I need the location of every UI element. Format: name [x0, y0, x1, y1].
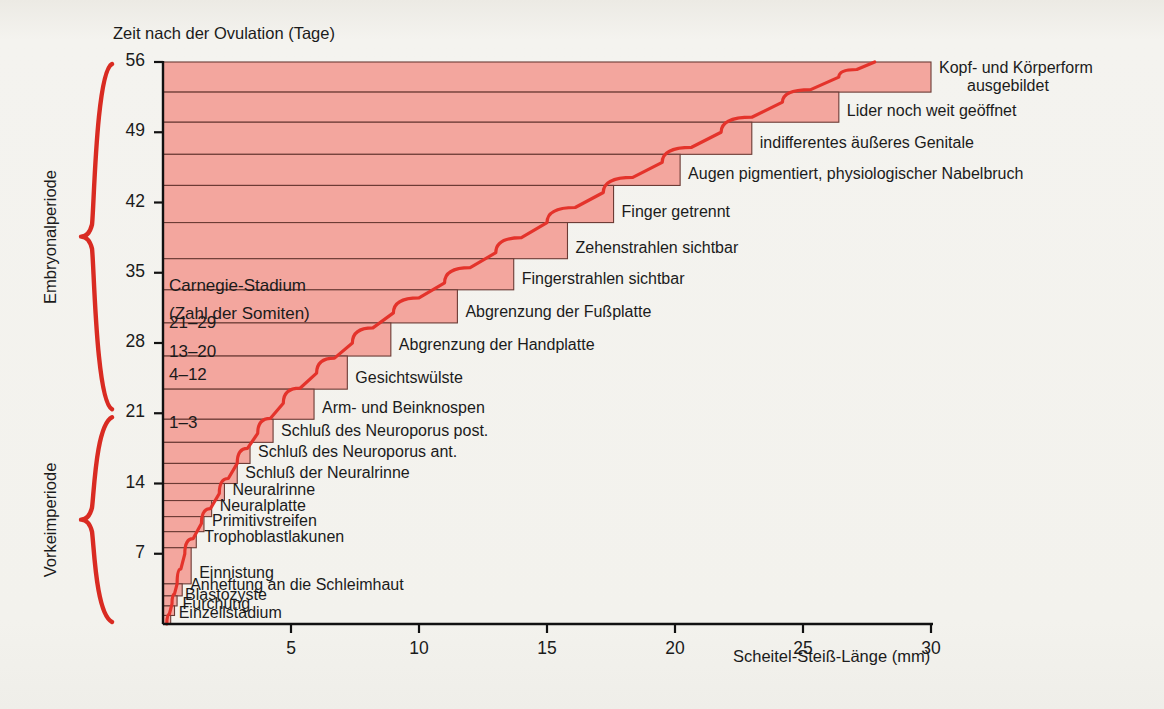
y-tick-label: 28	[95, 332, 145, 352]
y-tick-label: 56	[95, 51, 145, 71]
event-band	[163, 463, 237, 483]
event-label: Einzellstadium	[179, 604, 282, 622]
event-label: Lider noch weit geöffnet	[847, 102, 1017, 120]
period-label: Vorkeimperiode	[41, 462, 59, 577]
event-label: Schluß des Neuroporus post.	[281, 422, 488, 440]
x-axis-title: Scheitel-Steiß-Länge (mm)	[733, 647, 930, 665]
y-tick-label: 42	[95, 192, 145, 212]
event-label: Gesichtswülste	[355, 369, 463, 387]
x-tick-label: 25	[778, 639, 828, 659]
event-label: Schluß der Neuralrinne	[245, 464, 410, 482]
event-label-line: ausgebildet	[967, 77, 1093, 95]
event-label: Abgrenzung der Fußplatte	[465, 303, 651, 321]
period-label: Embryonalperiode	[41, 170, 59, 304]
embryo-development-chart: Zeit nach der Ovulation (Tage) Scheitel-…	[0, 0, 1164, 709]
y-tick-label: 49	[95, 121, 145, 141]
event-label: Abgrenzung der Handplatte	[399, 336, 595, 354]
event-label: Augen pigmentiert, physiologischer Nabel…	[688, 165, 1023, 183]
event-label: Fingerstrahlen sichtbar	[522, 270, 685, 288]
y-tick-label: 7	[95, 543, 145, 563]
event-band	[163, 185, 614, 222]
carnegie-stage-line1: Carnegie-Stadium	[169, 276, 310, 295]
event-label: Kopf- und Körperformausgebildet	[939, 59, 1093, 95]
event-label: Finger getrennt	[622, 203, 731, 221]
x-tick-label: 5	[266, 639, 316, 659]
y-tick-label: 35	[95, 262, 145, 282]
y-tick-label: 14	[95, 473, 145, 493]
event-label: Trophoblastlakunen	[204, 528, 344, 546]
bracket-embryonalperiode	[81, 64, 112, 409]
x-tick-label: 10	[394, 639, 444, 659]
y-tick-label: 21	[95, 402, 145, 422]
event-label: Schluß des Neuroporus ant.	[258, 443, 457, 461]
event-label: Arm- und Beinknospen	[322, 399, 485, 417]
somite-count-label: 1–3	[169, 413, 197, 432]
somite-count-label: 4–12	[169, 365, 207, 384]
y-axis-title: Zeit nach der Ovulation (Tage)	[113, 24, 335, 42]
x-tick-label: 30	[906, 639, 956, 659]
x-tick-label: 15	[522, 639, 572, 659]
event-label-line: Kopf- und Körperform	[939, 59, 1093, 77]
somite-count-label: 13–20	[169, 342, 216, 361]
x-tick-label: 20	[650, 639, 700, 659]
event-label: indifferentes äußeres Genitale	[760, 134, 974, 152]
somite-count-label: 21–29	[169, 313, 216, 332]
event-band	[163, 154, 680, 185]
event-band	[163, 596, 177, 606]
event-band	[163, 122, 752, 154]
bracket-vorkeimperiode	[81, 417, 112, 622]
event-label: Zehenstrahlen sichtbar	[575, 239, 738, 257]
